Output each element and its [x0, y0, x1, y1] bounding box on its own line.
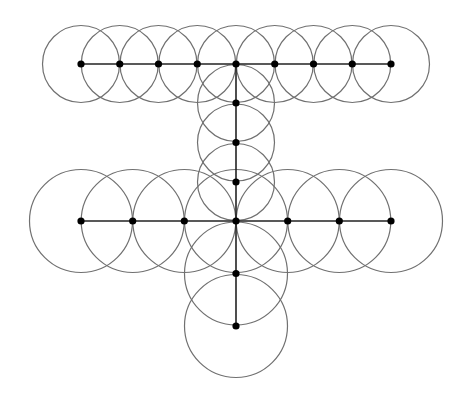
graph-node: [336, 217, 343, 224]
graph-node: [181, 217, 188, 224]
graph-node: [232, 322, 239, 329]
graph-node: [155, 60, 162, 67]
graph-node: [77, 217, 84, 224]
diagram-canvas: [0, 0, 459, 395]
graph-node: [349, 60, 356, 67]
graph-node: [232, 178, 239, 185]
graph-node: [232, 217, 239, 224]
graph-node: [232, 60, 239, 67]
graph-node: [116, 60, 123, 67]
graph-node: [77, 60, 84, 67]
graph-node: [387, 217, 394, 224]
graph-node: [232, 139, 239, 146]
graph-node: [194, 60, 201, 67]
graph-node: [232, 270, 239, 277]
graph-node: [387, 60, 394, 67]
graph-node: [284, 217, 291, 224]
graph-node: [232, 99, 239, 106]
graph-node: [129, 217, 136, 224]
graph-node: [310, 60, 317, 67]
disk-graph-diagram: [0, 0, 459, 395]
graph-node: [271, 60, 278, 67]
